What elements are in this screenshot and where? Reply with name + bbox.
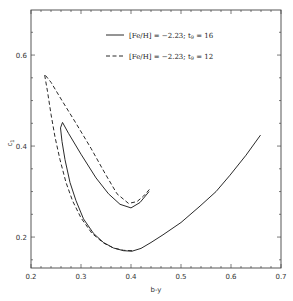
x-tick-label: 0.6	[225, 273, 237, 281]
svg-text:c1: c1	[6, 139, 15, 146]
x-tick-label: 0.5	[175, 273, 186, 281]
plot-border	[31, 10, 281, 268]
y-tick-label: 0.4	[16, 143, 28, 151]
series-line-t12	[45, 74, 151, 251]
chart: 0.20.30.40.50.60.7 0.20.40.6 [Fe/H] = −2…	[0, 0, 293, 301]
y-axis-ticks: 0.20.40.6	[16, 32, 281, 260]
x-tick-label: 0.3	[75, 273, 86, 281]
x-tick-label: 0.7	[275, 273, 286, 281]
y-tick-label: 0.6	[16, 52, 28, 60]
x-axis-label: b-y	[151, 286, 162, 294]
x-tick-label: 0.2	[25, 273, 36, 281]
series-layer	[45, 74, 261, 251]
x-axis-ticks: 0.20.30.40.50.60.7	[25, 10, 286, 281]
plot-frame	[31, 10, 281, 268]
x-tick-label: 0.4	[125, 273, 137, 281]
legend-label-t12: [Fe/H] = −2.23; t9 = 12	[129, 53, 213, 62]
legend: [Fe/H] = −2.23; t9 = 16 [Fe/H] = −2.23; …	[106, 32, 214, 62]
y-tick-label: 0.2	[16, 234, 27, 242]
y-axis-label: c1	[6, 139, 15, 146]
legend-label-t16: [Fe/H] = −2.23; t9 = 16	[129, 32, 214, 41]
